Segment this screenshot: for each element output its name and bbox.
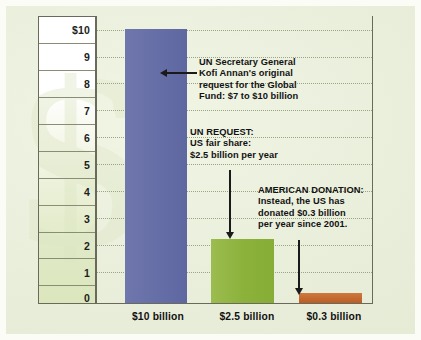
y-tick-label-1: 1: [84, 268, 90, 279]
x-tick-label-0-3-billion: $0.3 billion: [272, 311, 396, 322]
annotation-un-request-line-1: UN REQUEST:: [190, 127, 278, 138]
y-axis-scale-panel: $ $10 9 8 7 6 5 4 3 2 1 0: [38, 16, 96, 304]
bar-0-3-billion: [299, 293, 362, 303]
y-tick-label-7: 7: [84, 106, 90, 117]
y-tick-label-0: 0: [84, 293, 90, 304]
annotation-american-donation-line-4: per year since 2001.: [258, 219, 364, 230]
scale-rung: [39, 258, 95, 259]
y-tick-label-9: 9: [84, 52, 90, 63]
annotation-american-donation-line-1: AMERICAN DONATION:: [258, 185, 364, 196]
y-tick-label-3: 3: [84, 214, 90, 225]
annotation-annan-line-1: UN Secretary General: [199, 57, 298, 68]
american-donation-arrow-icon: [298, 240, 300, 288]
annotation-un-request: UN REQUEST: US fair share: $2.5 billion …: [190, 127, 278, 161]
scale-rung: [39, 124, 95, 125]
annotation-american-donation: AMERICAN DONATION: Instead, the US has d…: [258, 185, 364, 231]
annotation-annan-line-3: request for the Global: [199, 80, 298, 91]
annan-arrow-icon: [166, 72, 197, 74]
y-tick-label-4: 4: [84, 187, 90, 198]
y-tick-label-6: 6: [84, 133, 90, 144]
annotation-american-donation-line-2: Instead, the US has: [258, 196, 364, 207]
annotation-annan-request: UN Secretary General Kofi Annan's origin…: [199, 57, 298, 103]
x-axis-line: [96, 303, 373, 304]
scale-rung: [39, 151, 95, 152]
y-tick-label-8: 8: [84, 79, 90, 90]
un-request-arrow-icon: [229, 170, 231, 232]
scale-rung: [39, 232, 95, 233]
y-tick-label-2: 2: [84, 241, 90, 252]
scale-rung: [39, 43, 95, 44]
annotation-annan-line-4: Fund: $7 to $10 billion: [199, 91, 298, 102]
chart-figure: $ $ $10 9 8 7 6 5 4 3 2 1 0: [0, 0, 421, 340]
bar-10-billion: [125, 29, 187, 303]
y-axis-line: [96, 16, 97, 304]
annotation-american-donation-line-3: donated $0.3 billion: [258, 208, 364, 219]
annotation-un-request-line-2: US fair share:: [190, 138, 278, 149]
y-tick-label-5: 5: [84, 160, 90, 171]
annotation-annan-line-2: Kofi Annan's original: [199, 68, 298, 79]
scale-rung: [39, 178, 95, 179]
scale-rung: [39, 97, 95, 98]
scale-rung: [39, 285, 95, 286]
y-tick-label-10: $10: [72, 25, 90, 36]
plot-right-border: [372, 16, 373, 304]
scale-rung: [39, 70, 95, 71]
annotation-un-request-line-3: $2.5 billion per year: [190, 150, 278, 161]
bar-2-5-billion: [211, 239, 274, 303]
scale-rung: [39, 205, 95, 206]
